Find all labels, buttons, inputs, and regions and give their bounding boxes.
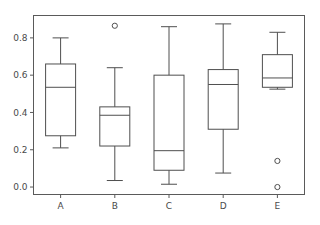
x-tick-label: B xyxy=(112,201,118,211)
y-tick-label: 0.0 xyxy=(13,182,28,192)
x-tick-label: A xyxy=(58,201,65,211)
box-body xyxy=(100,107,130,146)
outlier-point xyxy=(275,184,280,189)
box-body xyxy=(208,70,238,130)
x-tick-label: E xyxy=(275,201,281,211)
box-body xyxy=(46,64,76,136)
y-tick-label: 0.4 xyxy=(13,108,28,118)
y-tick-label: 0.6 xyxy=(13,70,28,80)
x-tick-label: C xyxy=(166,201,172,211)
box-plot-canvas: 0.00.20.40.60.8ABCDE xyxy=(0,0,320,225)
outlier-point xyxy=(112,23,117,28)
box-body xyxy=(154,75,184,170)
y-tick-label: 0.2 xyxy=(13,145,27,155)
box-body xyxy=(262,55,292,88)
x-tick-label: D xyxy=(220,201,227,211)
outlier-point xyxy=(275,158,280,163)
y-tick-label: 0.8 xyxy=(13,33,28,43)
box-plot-figure: 0.00.20.40.60.8ABCDE xyxy=(0,0,320,225)
